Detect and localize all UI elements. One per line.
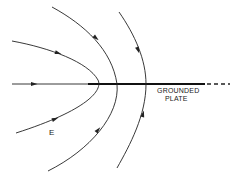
arrow-icon [51,116,58,122]
field-line-middle [48,7,117,171]
arrow-icon [31,82,38,86]
plate-label-line1: GROUNDED [157,87,199,94]
arrow-icon [55,50,62,56]
field-line-outer [117,12,146,168]
plate-label-line2: PLATE [165,95,188,102]
field-diagram: E GROUNDED PLATE [0,0,242,179]
field-label-e: E [49,128,54,137]
